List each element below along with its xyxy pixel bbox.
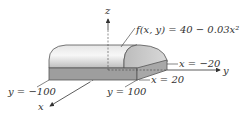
x-neg-label: x = −20 [179,58,221,69]
y-neg-label: y = −100 [7,86,56,97]
x-axis-label: x [38,101,44,112]
y-axis-label: y [222,65,229,76]
solid-diagram: z y x f(x, y) = 40 − 0.03x² x = −20 x = … [0,0,240,113]
z-axis-label: z [104,5,111,16]
y-pos-label: y = 100 [106,86,147,97]
x-pos-label: x = 20 [151,74,185,85]
function-label: f(x, y) = 40 − 0.03x² [135,24,239,35]
x-axis [50,82,90,106]
function-leader [121,28,135,47]
